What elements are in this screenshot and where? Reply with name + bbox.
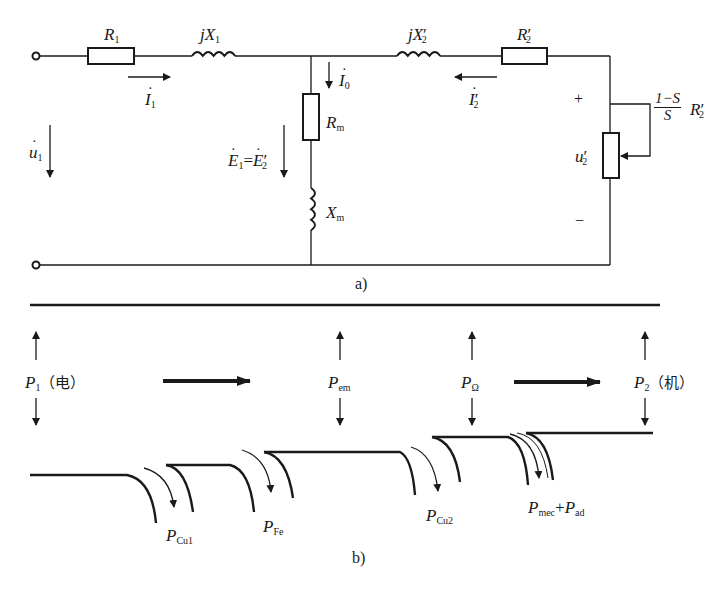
load-wiper — [610, 104, 650, 156]
label-pcu2: PCu2 — [426, 507, 453, 526]
resistor-r1 — [88, 48, 134, 64]
level-p1 — [30, 475, 156, 523]
label-u1: u1 — [29, 144, 43, 163]
label-i0: I0 — [339, 72, 350, 91]
inductor-jx1 — [192, 52, 235, 56]
resistor-r2p — [502, 48, 547, 64]
loss-arrow-cu1 — [144, 468, 174, 507]
step-cu2 — [432, 437, 460, 482]
label-minus: − — [575, 213, 584, 229]
label-i1: I1 — [145, 91, 156, 110]
caption-a: a) — [355, 276, 367, 292]
terminal-top — [33, 53, 40, 60]
power-flow-b — [30, 305, 660, 523]
label-p2: P2（机） — [634, 374, 694, 393]
label-plus: + — [574, 91, 583, 107]
label-u2p: u′2 — [575, 148, 587, 167]
label-r2p: R′2 — [517, 26, 531, 45]
step-mec — [526, 433, 553, 480]
label-jx1: jX1 — [200, 26, 220, 45]
load-resistor — [603, 133, 619, 178]
label-r1: R1 — [104, 26, 119, 45]
label-i2p: I′2 — [469, 91, 478, 110]
terminal-bottom — [33, 262, 40, 269]
step-fe — [264, 452, 293, 498]
label-xm: Xm — [326, 204, 344, 223]
label-pomega: PΩ — [461, 374, 479, 393]
label-jx2p: jX′2 — [408, 26, 427, 45]
caption-b: b) — [352, 550, 365, 566]
inductor-xm — [311, 188, 315, 230]
label-pfe: PFe — [263, 518, 283, 537]
diagram-drawing — [0, 0, 725, 597]
label-p1: P1（电） — [25, 374, 85, 393]
step-cu1 — [166, 465, 193, 512]
label-pem: Pem — [328, 374, 351, 393]
loss-arrow-fe — [242, 450, 271, 492]
label-load-fraction: 1−S S — [654, 91, 681, 124]
label-pmec-pad: Pmec+Pad — [528, 499, 584, 518]
label-e1-eq-e2p: E1=E′2 — [228, 152, 267, 171]
label-pcu1: PCu1 — [166, 527, 193, 546]
induction-motor-diagram: R1 jX1 jX′2 R′2 I1 I0 I′2 Rm Xm u1 E1=E′… — [0, 0, 725, 597]
label-rm: Rm — [326, 114, 344, 133]
resistor-rm — [303, 94, 319, 140]
label-load-r2p: R′2 — [690, 101, 704, 120]
inductor-jx2p — [397, 52, 440, 56]
